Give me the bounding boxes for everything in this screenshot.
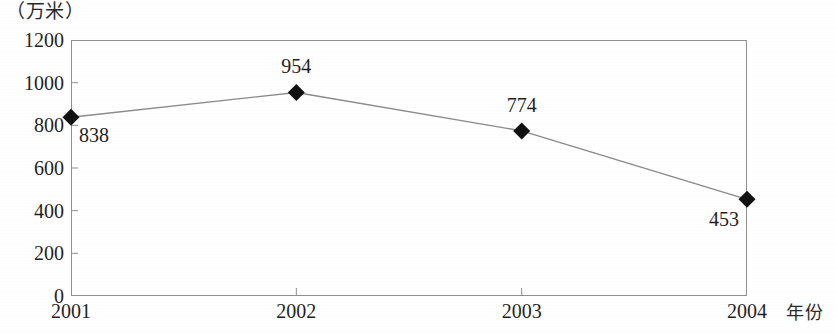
y-tick-label: 800 [0,115,64,135]
data-point-marker [288,84,305,101]
y-tick-label: 200 [0,243,64,263]
y-axis-tick-marks [71,83,78,254]
x-axis-tick-marks [296,288,521,296]
y-tick-label: 1000 [0,73,64,93]
x-tick-label: 2002 [251,300,341,322]
x-tick-label: 2003 [477,300,567,322]
data-point-label: 838 [79,125,199,145]
x-tick-label: 2001 [26,300,116,322]
data-point-marker [739,191,756,208]
data-point-marker [63,109,80,126]
x-axis-title: 年份 [786,302,823,324]
y-tick-label: 600 [0,158,64,178]
data-point-label: 453 [619,209,739,229]
data-point-label: 954 [236,56,356,76]
data-line [71,92,747,199]
plot-surface [0,0,836,333]
x-tick-label: 2004 [702,300,792,322]
data-point-label: 774 [462,95,582,115]
y-tick-label: 400 [0,201,64,221]
y-tick-label: 1200 [0,30,64,50]
line-chart: （万米） 020040060080010001200 2001200220032… [0,0,836,333]
data-point-marker [513,122,530,139]
data-point-markers [63,84,756,208]
